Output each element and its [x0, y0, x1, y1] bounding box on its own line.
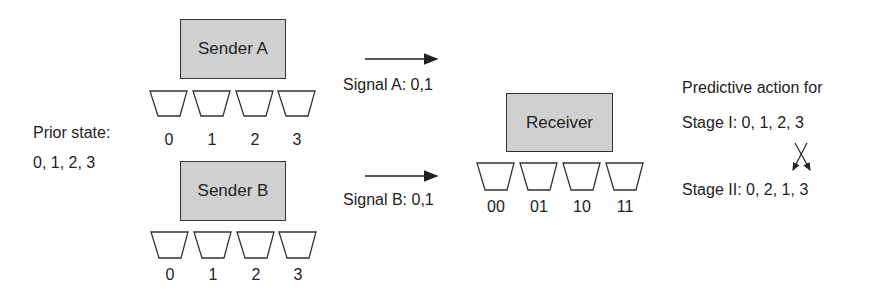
urn-icon — [236, 91, 273, 116]
urn-icon — [279, 232, 316, 258]
urn-icon — [606, 163, 643, 190]
sender-b-urn-label: 0 — [150, 266, 190, 284]
sender-a-urn-label: 3 — [277, 131, 317, 149]
receiver-box: Receiver — [506, 93, 613, 152]
urn-icon — [151, 232, 188, 258]
sender-a-urn-label: 0 — [149, 131, 189, 149]
sender-a-urn-label: 2 — [235, 131, 275, 149]
sender-a-box: Sender A — [180, 19, 286, 79]
urn-icon — [193, 91, 230, 116]
receiver-urn-label: 10 — [562, 198, 602, 216]
urn-icon — [150, 91, 187, 116]
swap-cross-arrows-icon — [793, 143, 810, 170]
prior-state-label: Prior state: — [33, 124, 110, 142]
predictive-action-title: Predictive action for — [682, 79, 823, 97]
receiver-urn-label: 11 — [605, 198, 645, 216]
sender-a-urn-label: 1 — [192, 131, 232, 149]
urn-icon — [477, 163, 514, 190]
urn-icon — [520, 163, 557, 190]
urn-icon — [563, 163, 600, 190]
urn-icon — [237, 232, 274, 258]
stage-1-actions: Stage I: 0, 1, 2, 3 — [682, 114, 804, 132]
diagram-shapes — [0, 0, 895, 295]
sender-b-urns — [151, 232, 316, 258]
stage-2-actions: Stage II: 0, 2, 1, 3 — [682, 181, 808, 199]
urn-icon — [278, 91, 315, 116]
signal-a-label: Signal A: 0,1 — [343, 76, 433, 94]
receiver-urn-label: 01 — [519, 198, 559, 216]
sender-b-box: Sender B — [180, 161, 286, 221]
sender-b-urn-label: 1 — [193, 266, 233, 284]
urn-icon — [194, 232, 231, 258]
sender-a-label: Sender A — [198, 39, 268, 59]
receiver-urns — [477, 163, 643, 190]
sender-b-label: Sender B — [198, 181, 269, 201]
receiver-label: Receiver — [526, 113, 593, 133]
receiver-urn-label: 00 — [476, 198, 516, 216]
sender-b-urn-label: 3 — [278, 266, 318, 284]
sender-a-urns — [150, 91, 315, 116]
prior-state-values: 0, 1, 2, 3 — [33, 154, 95, 172]
signal-b-label: Signal B: 0,1 — [343, 191, 434, 209]
sender-b-urn-label: 2 — [236, 266, 276, 284]
